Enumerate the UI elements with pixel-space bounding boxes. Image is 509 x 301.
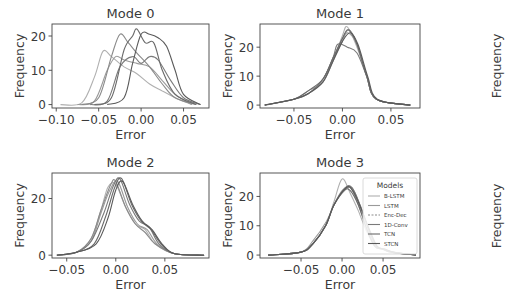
series-line-1d-conv bbox=[265, 44, 411, 105]
subplot-title: Mode 3 bbox=[316, 155, 364, 170]
right-edge-frequency-label: Frequency bbox=[489, 33, 504, 98]
series-line-enc-dec bbox=[265, 30, 411, 105]
series-line-stcn bbox=[57, 181, 204, 255]
x-axis-label: Error bbox=[325, 127, 356, 142]
figure: Mode 0−0.10−0.050.000.0501020ErrorFreque… bbox=[0, 0, 509, 301]
legend-entry-1d-conv: 1D-Conv bbox=[384, 222, 408, 228]
y-tick-label: 0 bbox=[246, 99, 254, 113]
legend-entry-b-lstm: B-LSTM bbox=[384, 193, 405, 199]
x-tick-label: 0.05 bbox=[151, 263, 178, 277]
series-line-lstm bbox=[57, 181, 204, 255]
legend-entry-tcn: TCN bbox=[383, 231, 395, 237]
subplot-title: Mode 1 bbox=[316, 6, 364, 21]
legend: ModelsB-LSTMLSTMEnc-Dec1D-ConvTCNSTCN bbox=[363, 178, 417, 254]
x-tick-label: 0.05 bbox=[378, 113, 405, 127]
y-tick-label: 0 bbox=[38, 249, 46, 263]
series-line-tcn bbox=[265, 30, 411, 105]
series-line-lstm bbox=[265, 33, 411, 105]
axes-frame bbox=[260, 24, 420, 108]
series-group bbox=[61, 29, 201, 105]
y-tick-label: 20 bbox=[239, 190, 254, 204]
subplot-0: Mode 0−0.10−0.050.000.0501020ErrorFreque… bbox=[12, 6, 209, 142]
x-tick-label: 0.05 bbox=[170, 113, 197, 127]
subplot-title: Mode 2 bbox=[107, 155, 155, 170]
y-tick-label: 10 bbox=[239, 219, 254, 233]
series-line-tcn bbox=[94, 29, 196, 105]
series-group bbox=[57, 178, 204, 255]
axes-frame bbox=[52, 24, 209, 108]
y-tick-label: 0 bbox=[38, 98, 46, 112]
y-tick-label: 20 bbox=[239, 41, 254, 55]
x-tick-label: 0.00 bbox=[102, 263, 129, 277]
right-edge-frequency-label: Frequency bbox=[489, 183, 504, 248]
x-tick-label: 0.05 bbox=[370, 263, 397, 277]
legend-entry-enc-dec: Enc-Dec bbox=[384, 212, 407, 218]
series-group bbox=[265, 26, 411, 105]
subplot-2: Mode 2−0.050.000.05020ErrorFrequency bbox=[12, 155, 209, 292]
x-tick-label: −0.05 bbox=[48, 263, 85, 277]
x-axis-label: Error bbox=[115, 127, 146, 142]
series-line-b-lstm bbox=[265, 26, 411, 105]
y-tick-label: 10 bbox=[31, 64, 46, 78]
subplot-1: Mode 1−0.050.000.0501020ErrorFrequency bbox=[220, 6, 420, 142]
y-axis-label: Frequency bbox=[220, 33, 235, 98]
y-axis-label: Frequency bbox=[12, 183, 27, 248]
x-axis-label: Error bbox=[325, 277, 356, 292]
series-line-b-lstm bbox=[57, 183, 204, 256]
x-tick-label: −0.10 bbox=[38, 113, 75, 127]
subplot-3: Mode 3−0.050.000.0501020ErrorFrequencyMo… bbox=[220, 155, 420, 292]
y-tick-label: 20 bbox=[31, 192, 46, 206]
x-tick-label: 0.00 bbox=[128, 113, 155, 127]
x-tick-label: −0.05 bbox=[80, 113, 117, 127]
legend-entry-stcn: STCN bbox=[384, 241, 398, 247]
x-tick-label: 0.00 bbox=[329, 113, 356, 127]
y-axis-label: Frequency bbox=[12, 33, 27, 98]
y-tick-label: 0 bbox=[246, 249, 254, 263]
y-tick-label: 20 bbox=[31, 30, 46, 44]
legend-title: Models bbox=[377, 181, 404, 190]
x-axis-label: Error bbox=[115, 277, 146, 292]
x-tick-label: 0.00 bbox=[329, 263, 356, 277]
y-tick-label: 10 bbox=[239, 70, 254, 84]
series-line-stcn bbox=[265, 33, 411, 105]
subplot-title: Mode 0 bbox=[107, 6, 155, 21]
series-line-enc-dec bbox=[57, 179, 204, 255]
legend-entry-lstm: LSTM bbox=[384, 203, 399, 209]
x-tick-label: −0.05 bbox=[276, 113, 313, 127]
x-tick-label: −0.05 bbox=[283, 263, 320, 277]
y-axis-label: Frequency bbox=[220, 183, 235, 248]
